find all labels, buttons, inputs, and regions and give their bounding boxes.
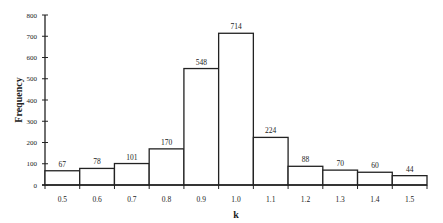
x-tick-label: 1.1 [266, 195, 276, 204]
histogram-bar [392, 176, 427, 185]
x-tick-label: 0.7 [127, 195, 137, 204]
x-tick-label: 0.5 [58, 195, 68, 204]
histogram-bar [253, 137, 288, 185]
bars: 677810117054871422488706044 [45, 22, 427, 185]
histogram-bar [114, 164, 149, 185]
histogram-bar [288, 166, 323, 185]
bar-value-label: 60 [371, 161, 379, 170]
x-tick-label: 0.9 [197, 195, 207, 204]
y-tick-label: 500 [27, 75, 38, 83]
bar-value-label: 548 [196, 58, 208, 67]
x-axis: 0.50.60.70.80.91.01.11.21.31.41.5 [42, 185, 427, 204]
x-tick-label: 0.8 [162, 195, 172, 204]
y-tick-label: 700 [27, 33, 38, 41]
x-tick-label: 1.3 [335, 195, 345, 204]
bar-value-label: 67 [59, 160, 67, 169]
bar-value-label: 714 [230, 22, 242, 31]
y-tick-label: 0 [34, 182, 38, 190]
x-tick-label: 1.5 [405, 195, 415, 204]
histogram-bar [45, 171, 80, 185]
x-tick-label: 0.6 [92, 195, 102, 204]
x-tick-label: 1.0 [231, 195, 241, 204]
x-tick-label: 1.2 [301, 195, 311, 204]
bar-value-label: 44 [406, 165, 414, 174]
y-tick-label: 100 [27, 160, 38, 168]
histogram-bar [219, 33, 254, 185]
x-tick-label: 1.4 [370, 195, 380, 204]
histogram-chart: 0100200300400500600700800 67781011705487… [0, 0, 443, 223]
y-tick-label: 800 [27, 12, 38, 20]
bar-value-label: 170 [161, 138, 173, 147]
y-tick-label: 600 [27, 54, 38, 62]
y-axis: 0100200300400500600700800 [27, 12, 49, 190]
histogram-bar [184, 69, 219, 185]
y-axis-label: Frequency [13, 77, 24, 122]
y-tick-label: 300 [27, 118, 38, 126]
bar-value-label: 88 [302, 155, 310, 164]
x-axis-label: k [233, 209, 239, 220]
y-tick-label: 200 [27, 139, 38, 147]
y-tick-label: 400 [27, 97, 38, 105]
bar-value-label: 101 [126, 153, 138, 162]
histogram-bar [80, 168, 115, 185]
histogram-bar [323, 170, 358, 185]
histogram-bar [358, 172, 393, 185]
bar-value-label: 78 [93, 157, 101, 166]
histogram-bar [149, 149, 184, 185]
bar-value-label: 70 [336, 159, 344, 168]
bar-value-label: 224 [265, 126, 277, 135]
